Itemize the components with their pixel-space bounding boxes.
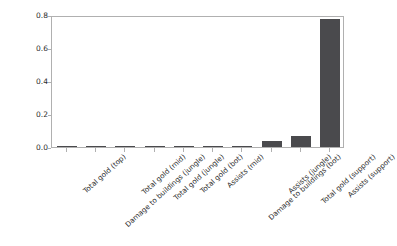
x-axis-tick-mark <box>95 148 96 152</box>
x-axis-tick-mark <box>212 148 213 152</box>
x-axis-tick-mark <box>124 148 125 152</box>
y-axis-tick-mark <box>48 148 52 149</box>
bar <box>262 141 282 147</box>
bar <box>115 146 135 147</box>
bar-series <box>52 17 343 147</box>
bar <box>86 146 106 147</box>
bar <box>320 19 340 147</box>
bar <box>203 146 223 147</box>
bar <box>57 146 77 147</box>
bar <box>145 146 165 147</box>
bar <box>232 146 252 147</box>
x-axis-tick-mark <box>241 148 242 152</box>
bar <box>291 136 311 147</box>
y-axis-tick-label: 0.0 <box>0 144 48 152</box>
bar <box>174 146 194 147</box>
x-axis-tick-mark <box>271 148 272 152</box>
x-axis-tick-label: Total gold (top) <box>82 153 127 195</box>
plot-area <box>51 16 344 148</box>
y-axis-tick-label: 0.6 <box>0 45 48 53</box>
x-axis-tick-mark <box>329 148 330 152</box>
x-axis-tick-mark <box>300 148 301 152</box>
y-axis-tick-label: 0.8 <box>0 12 48 20</box>
x-axis-tick-mark <box>183 148 184 152</box>
y-axis-tick-label: 0.2 <box>0 111 48 119</box>
x-axis-tick-mark <box>154 148 155 152</box>
x-axis-tick-mark <box>66 148 67 152</box>
x-axis-tick-label: Damage to buildings (jungle) <box>124 153 207 228</box>
y-axis-tick-label: 0.4 <box>0 78 48 86</box>
